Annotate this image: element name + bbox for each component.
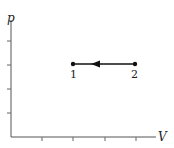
p-axis-ticks [7, 41, 11, 113]
v-axis-ticks [42, 137, 136, 141]
p-axis-label: p [7, 11, 15, 25]
state-label-2: 2 [131, 68, 138, 81]
state-point-2 [133, 62, 137, 66]
pv-diagram: p V 1 2 [0, 0, 174, 148]
state-label-1: 1 [70, 68, 77, 81]
v-axis-label: V [158, 130, 168, 144]
arrow-left-icon [91, 61, 100, 68]
state-point-1 [71, 62, 75, 66]
